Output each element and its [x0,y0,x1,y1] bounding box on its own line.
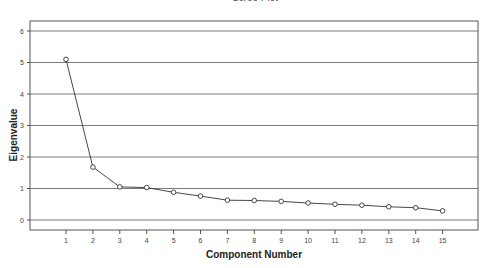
y-tick-label: 5 [20,59,24,66]
data-point-marker [252,198,257,203]
x-tick-label: 11 [331,237,338,244]
y-tick-label: 6 [20,28,24,35]
data-point-marker [333,202,338,207]
x-tick-label: 3 [118,237,122,244]
y-tick-label: 0 [20,217,24,224]
data-point-marker [440,209,445,214]
x-tick-label: 10 [304,237,312,244]
data-point-marker [360,203,365,208]
x-tick-label: 8 [252,237,256,244]
data-point-marker [413,205,418,210]
x-tick-label: 12 [358,237,366,244]
x-axis: 123456789101112131415 [64,230,447,244]
data-point-marker [171,190,176,195]
data-point-marker [198,194,203,199]
x-tick-label: 7 [225,237,229,244]
data-markers [64,57,445,213]
x-tick-label: 2 [91,237,95,244]
y-tick-label: 3 [20,122,24,129]
data-point-marker [387,204,392,209]
x-tick-label: 5 [172,237,176,244]
y-axis: 0123456 [20,28,30,224]
data-point-marker [118,185,123,190]
x-tick-label: 15 [439,237,447,244]
x-axis-label: Component Number [206,249,302,260]
y-tick-label: 1 [20,185,24,192]
data-point-marker [64,57,69,62]
x-tick-label: 6 [199,237,203,244]
y-axis-label: Eigenvalue [8,108,19,161]
x-tick-label: 14 [412,237,420,244]
data-point-marker [91,165,96,170]
data-point-marker [279,199,284,204]
x-tick-label: 4 [145,237,149,244]
x-tick-label: 13 [385,237,393,244]
chart-title: Scree Plot [232,0,278,3]
x-tick-label: 9 [279,237,283,244]
y-tick-label: 2 [20,154,24,161]
data-point-marker [306,201,311,206]
y-tick-label: 4 [20,91,24,98]
gridlines [30,31,478,220]
x-tick-label: 1 [64,237,68,244]
data-point-marker [225,198,230,203]
data-point-marker [144,185,149,190]
scree-plot: Scree Plot 0123456 123456789101112131415… [0,0,488,268]
